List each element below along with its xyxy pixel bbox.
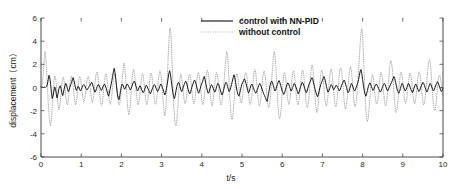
x-tick-label-5: 5 bbox=[240, 160, 245, 169]
y-tick-label-6: 6 bbox=[33, 14, 38, 23]
x-tick-label-7: 7 bbox=[320, 160, 325, 169]
x-tick-label-4: 4 bbox=[200, 160, 205, 169]
y-tick-label-2: 2 bbox=[33, 60, 38, 69]
x-tick-label-3: 3 bbox=[159, 160, 164, 169]
x-tick-label-10: 10 bbox=[439, 160, 448, 169]
y-tick-label--6: -6 bbox=[30, 153, 38, 162]
chart-plot-area: 012345678910-6-4-20246 t/s displacement（… bbox=[0, 0, 462, 189]
chart-figure: 012345678910-6-4-20246 t/s displacement（… bbox=[0, 0, 462, 189]
chart-background bbox=[0, 0, 462, 189]
y-tick-label--2: -2 bbox=[30, 107, 38, 116]
legend-label-without-control: without control bbox=[238, 27, 300, 37]
x-tick-label-6: 6 bbox=[280, 160, 285, 169]
y-axis-title: displacement（cm） bbox=[8, 48, 18, 127]
x-tick-label-0: 0 bbox=[39, 160, 44, 169]
y-tick-label-4: 4 bbox=[33, 37, 38, 46]
x-tick-label-8: 8 bbox=[360, 160, 365, 169]
y-tick-label-0: 0 bbox=[33, 84, 38, 93]
x-axis-title: t/s bbox=[227, 173, 236, 183]
x-tick-label-1: 1 bbox=[79, 160, 84, 169]
y-tick-label--4: -4 bbox=[30, 130, 38, 139]
legend-label-control-with-nn-pid: control with NN-PID bbox=[239, 16, 319, 26]
x-tick-label-2: 2 bbox=[119, 160, 124, 169]
x-tick-label-9: 9 bbox=[401, 160, 406, 169]
